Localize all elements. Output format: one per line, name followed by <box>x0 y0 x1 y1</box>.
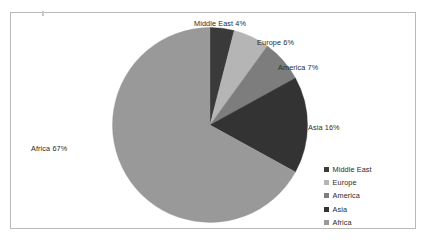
legend-swatch-asia <box>324 207 329 212</box>
legend-item-africa: Africa <box>324 218 372 227</box>
legend-item-asia: Asia <box>324 205 372 214</box>
legend-swatch-middle-east <box>324 167 329 172</box>
legend-label-europe: Europe <box>333 178 357 187</box>
legend-label-asia: Asia <box>333 205 348 214</box>
slice-label-asia: Asia 16% <box>308 123 340 132</box>
pie-chart-graphic <box>112 27 308 223</box>
legend-item-middle-east: Middle East <box>324 165 372 174</box>
legend-item-europe: Europe <box>324 178 372 187</box>
slice-label-middle-east: Middle East 4% <box>194 19 246 28</box>
slice-label-europe: Europe 6% <box>257 38 294 47</box>
slice-label-america: America 7% <box>278 63 318 72</box>
legend-swatch-africa <box>324 220 329 225</box>
chart-frame: Middle East 4% Europe 6% America 7% Asia… <box>10 12 416 229</box>
legend-label-america: America <box>333 191 360 200</box>
chart-legend: Middle EastEuropeAmericaAsiaAfrica <box>324 165 372 227</box>
slice-label-africa: Africa 67% <box>31 144 67 153</box>
legend-item-america: America <box>324 191 372 200</box>
legend-swatch-europe <box>324 180 329 185</box>
legend-label-middle-east: Middle East <box>333 165 372 174</box>
legend-label-africa: Africa <box>333 218 352 227</box>
pie-chart-plot-area: Middle East 4% Europe 6% America 7% Asia… <box>11 13 417 230</box>
legend-swatch-america <box>324 193 329 198</box>
pie-slices-group <box>113 28 308 223</box>
